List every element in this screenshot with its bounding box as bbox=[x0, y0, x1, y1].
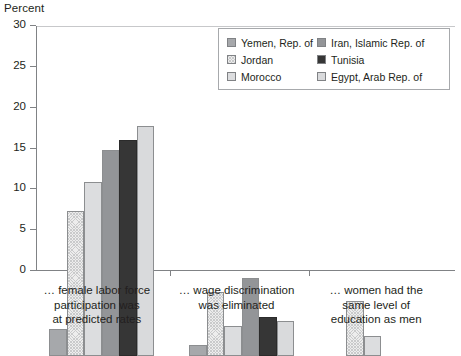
legend-item[interactable]: Egypt, Arab Rep. of bbox=[317, 68, 424, 85]
x-separator-1 bbox=[170, 271, 171, 276]
legend-swatch-icon bbox=[317, 72, 326, 81]
y-tick-15 bbox=[30, 148, 36, 149]
legend-item[interactable]: Tunisia bbox=[317, 51, 424, 68]
bar bbox=[277, 321, 295, 356]
plot-top-border bbox=[36, 26, 455, 27]
y-tick-20 bbox=[30, 107, 36, 108]
x-axis-label-line: was eliminated bbox=[164, 298, 310, 313]
bar bbox=[49, 329, 67, 356]
legend-item[interactable]: Iran, Islamic Rep. of bbox=[317, 34, 424, 51]
x-axis-label-line: … female labor force bbox=[24, 283, 170, 298]
x-axis-label-line: at predicted rates bbox=[24, 312, 170, 327]
x-axis-label-line: participation was bbox=[24, 298, 170, 313]
legend-item[interactable]: Yemen, Rep. of bbox=[227, 34, 313, 51]
y-tick-label-0: 0 bbox=[0, 263, 26, 275]
y-axis-line bbox=[36, 26, 37, 271]
bar bbox=[189, 345, 207, 356]
bar bbox=[259, 317, 277, 356]
y-tick-25 bbox=[30, 66, 36, 67]
legend-swatch-icon bbox=[227, 55, 236, 64]
legend-column-1: Yemen, Rep. ofJordanMorocco bbox=[227, 34, 313, 85]
y-tick-label-5: 5 bbox=[0, 222, 26, 234]
legend: Yemen, Rep. ofJordanMorocco Iran, Islami… bbox=[218, 28, 450, 90]
legend-label: Iran, Islamic Rep. of bbox=[331, 37, 424, 49]
bar bbox=[84, 182, 102, 356]
x-axis-label-line: education as men bbox=[303, 312, 449, 327]
y-tick-label-30: 30 bbox=[0, 18, 26, 30]
legend-item[interactable]: Morocco bbox=[227, 68, 313, 85]
x-axis-label-1: … female labor forceparticipation wasat … bbox=[24, 283, 170, 327]
legend-label: Morocco bbox=[241, 71, 281, 83]
legend-label: Egypt, Arab Rep. of bbox=[331, 71, 422, 83]
y-axis-title: Percent bbox=[4, 2, 44, 14]
x-axis-label-line: same level of bbox=[303, 298, 449, 313]
legend-swatch-icon bbox=[317, 38, 326, 47]
legend-swatch-icon bbox=[227, 72, 236, 81]
legend-label: Yemen, Rep. of bbox=[241, 37, 313, 49]
y-tick-label-15: 15 bbox=[0, 141, 26, 153]
y-tick-5 bbox=[30, 229, 36, 230]
legend-label: Tunisia bbox=[331, 54, 364, 66]
x-separator-2 bbox=[309, 271, 310, 276]
legend-label: Jordan bbox=[241, 54, 273, 66]
legend-swatch-icon bbox=[227, 38, 236, 47]
x-axis-label-line: … wage discrimination bbox=[164, 283, 310, 298]
legend-item[interactable]: Jordan bbox=[227, 51, 313, 68]
y-tick-0 bbox=[30, 270, 36, 271]
legend-column-2: Iran, Islamic Rep. ofTunisiaEgypt, Arab … bbox=[317, 34, 424, 85]
x-axis-label-line: … women had the bbox=[303, 283, 449, 298]
legend-swatch-icon bbox=[317, 55, 326, 64]
bar bbox=[224, 326, 242, 356]
y-tick-10 bbox=[30, 188, 36, 189]
y-tick-label-25: 25 bbox=[0, 59, 26, 71]
x-axis-label-3: … women had thesame level ofeducation as… bbox=[303, 283, 449, 327]
bar bbox=[364, 336, 382, 356]
y-tick-label-20: 20 bbox=[0, 100, 26, 112]
y-tick-30 bbox=[30, 25, 36, 26]
x-axis-label-2: … wage discriminationwas eliminated bbox=[164, 283, 310, 312]
y-tick-label-10: 10 bbox=[0, 181, 26, 193]
